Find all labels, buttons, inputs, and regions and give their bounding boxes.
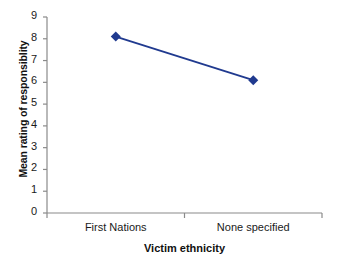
y-axis	[43, 17, 47, 213]
y-tick-label: 0	[21, 205, 37, 217]
data-point-marker	[111, 32, 121, 42]
y-tick-label: 9	[21, 9, 37, 21]
x-tick-label: None specified	[183, 221, 323, 233]
y-tick-label: 6	[21, 74, 37, 86]
y-tick-label: 8	[21, 31, 37, 43]
x-axis-title: Victim ethnicity	[47, 242, 322, 254]
y-tick-label: 1	[21, 183, 37, 195]
x-tick-marks	[47, 213, 322, 218]
x-tick-label: First Nations	[46, 221, 186, 233]
y-tick-label: 4	[21, 118, 37, 130]
data-series	[111, 32, 259, 86]
y-tick-label: 3	[21, 140, 37, 152]
series-line	[116, 37, 254, 81]
y-tick-label: 5	[21, 96, 37, 108]
y-tick-label: 7	[21, 53, 37, 65]
chart-container: Mean rating of responsiblity 0123456789 …	[0, 0, 337, 264]
data-point-marker	[248, 75, 258, 85]
y-tick-label: 2	[21, 161, 37, 173]
x-axis	[47, 213, 322, 218]
